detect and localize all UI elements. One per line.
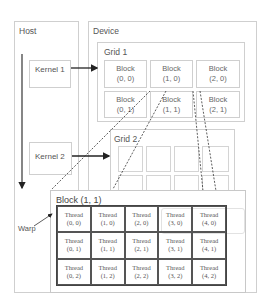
grid1-block-0-1: Block (0, 1) <box>104 91 147 118</box>
block-index: (2, 0) <box>197 74 239 84</box>
block-title: Block <box>197 95 239 105</box>
grid2-block <box>174 146 199 172</box>
block-title: Block <box>105 95 146 105</box>
grid1-block-1-0: Block (1, 0) <box>150 60 193 88</box>
block-index: (1, 1) <box>151 105 192 115</box>
thread-3-1: Thread(3, 1) <box>158 232 192 258</box>
thread-4-2: Thread(4, 2) <box>192 259 226 285</box>
grid-2-label: Grid 2 <box>114 134 137 144</box>
thread-0-2: Thread(0, 2) <box>57 259 91 285</box>
block-index: (1, 0) <box>151 74 192 84</box>
block-index: (0, 0) <box>105 74 146 84</box>
kernel-1-box: Kernel 1 <box>29 60 71 88</box>
warp-label: Warp <box>18 224 36 233</box>
grid2-block <box>146 146 171 172</box>
thread-2-1: Thread(2, 1) <box>125 232 159 258</box>
thread-2-0: Thread(2, 0) <box>125 206 159 232</box>
grid1-block-2-0: Block (2, 0) <box>196 60 240 88</box>
thread-1-1: Thread(1, 1) <box>91 232 125 258</box>
grid1-block-1-1: Block (1, 1) <box>150 91 193 118</box>
grid2-block <box>118 146 143 172</box>
block-title: Block <box>151 64 192 74</box>
thread-1-2: Thread(1, 2) <box>91 259 125 285</box>
kernel-1-label: Kernel 1 <box>35 65 65 74</box>
kernel-2-box: Kernel 2 <box>29 142 72 175</box>
thread-4-1: Thread(4, 1) <box>192 232 226 258</box>
grid2-block <box>202 146 229 172</box>
thread-3-2: Thread(3, 2) <box>158 259 192 285</box>
block-detail-label: Block (1, 1) <box>56 195 102 205</box>
host-label: Host <box>19 26 36 36</box>
thread-grid: Thread(0, 0) Thread(1, 0) Thread(2, 0) T… <box>56 205 227 286</box>
device-label: Device <box>93 26 119 36</box>
grid-1-label: Grid 1 <box>104 47 127 57</box>
grid1-block-0-0: Block (0, 0) <box>104 60 147 88</box>
block-index: (0, 1) <box>105 105 146 115</box>
grid1-block-2-1: Block (2, 1) <box>196 91 240 118</box>
block-title: Block <box>105 64 146 74</box>
thread-2-2: Thread(2, 2) <box>125 259 159 285</box>
thread-3-0: Thread(3, 0) <box>158 206 192 232</box>
kernel-2-label: Kernel 2 <box>35 152 65 161</box>
thread-4-0: Thread(4, 0) <box>192 206 226 232</box>
thread-1-0: Thread(1, 0) <box>91 206 125 232</box>
thread-0-1: Thread(0, 1) <box>57 232 91 258</box>
block-title: Block <box>151 95 192 105</box>
block-title: Block <box>197 64 239 74</box>
thread-0-0: Thread(0, 0) <box>57 206 91 232</box>
block-index: (2, 1) <box>197 105 239 115</box>
